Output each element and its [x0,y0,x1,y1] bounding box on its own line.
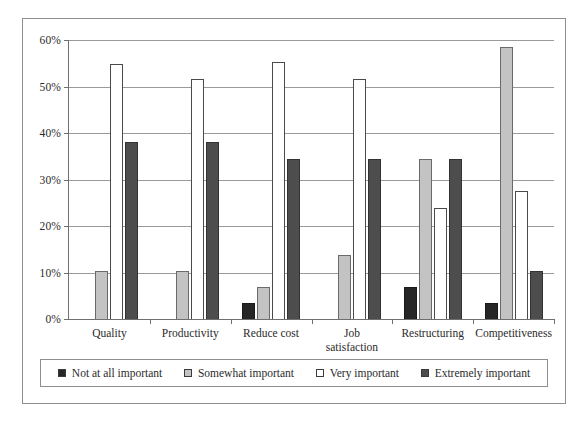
y-axis-tick-label: 0% [45,313,61,325]
bar [125,142,138,319]
y-axis-tick-label: 50% [40,81,61,93]
legend-item[interactable]: Somewhat important [184,367,294,379]
hollow-square-icon [316,369,324,377]
bar [242,303,255,319]
x-axis-tick [473,319,474,324]
y-axis-tick-label: 20% [40,220,61,232]
bar [353,79,366,319]
y-axis-tick [64,319,69,320]
bar [419,159,432,319]
bar [257,287,270,319]
bar-group: Restructuring [392,40,473,319]
bar-group-bars [392,40,473,319]
bar-group: Productivity [150,40,231,319]
bar [176,271,189,319]
bar [500,47,513,319]
bar [515,191,528,319]
bar [287,159,300,319]
bar [404,287,417,319]
gray-square-icon [421,369,429,377]
legend-item[interactable]: Not at all important [58,367,162,379]
bar [95,271,108,319]
bar [485,303,498,319]
bar-group: Reduce cost [231,40,312,319]
bar [272,62,285,319]
bar-group-bars [69,40,150,319]
bar [449,159,462,319]
bar [110,64,123,319]
chart-legend: Not at all importantSomewhat importantVe… [40,359,548,387]
y-axis-tick-label: 30% [40,174,61,186]
bar [368,159,381,319]
dark-square-icon [58,369,66,377]
bar [191,79,204,319]
x-axis-tick [554,319,555,324]
legend-item-label: Somewhat important [198,367,294,379]
bar-group: Quality [69,40,150,319]
bar-group-bars [473,40,554,319]
bar [530,271,543,319]
x-axis-tick [312,319,313,324]
x-axis-tick [392,319,393,324]
legend-item-label: Not at all important [72,367,162,379]
legend-item-label: Very important [330,367,399,379]
bar-group: Job satisfaction [312,40,393,319]
x-axis-tick [231,319,232,324]
legend-item[interactable]: Extremely important [421,367,531,379]
plot-area: 0%10%20%30%40%50%60% QualityProductivity… [68,40,554,320]
bar [338,255,351,319]
x-axis-category-label: Competitiveness [459,326,569,340]
bar-group: Competitiveness [473,40,554,319]
legend-item-label: Extremely important [435,367,531,379]
chart-figure: 0%10%20%30%40%50%60% QualityProductivity… [0,0,588,423]
bar-group-bars [231,40,312,319]
light-gray-square-icon [184,369,192,377]
bar-group-bars [312,40,393,319]
y-axis-tick-label: 60% [40,34,61,46]
bar-group-bars [150,40,231,319]
x-axis-tick [150,319,151,324]
bar [206,142,219,319]
bar [434,208,447,319]
y-axis-tick-label: 10% [40,267,61,279]
y-axis-tick-label: 40% [40,127,61,139]
legend-item[interactable]: Very important [316,367,399,379]
